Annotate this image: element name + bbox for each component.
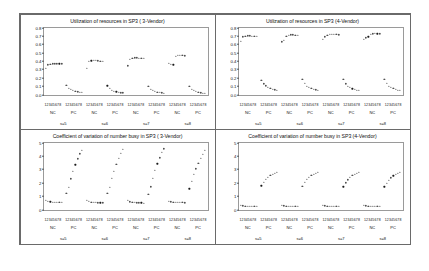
x-axis-subgroup-label: PC: [195, 110, 201, 115]
data-point: [56, 202, 57, 203]
data-point: [171, 64, 172, 65]
data-point: [370, 34, 371, 35]
x-axis-tick-labels: 12345678: [364, 218, 381, 222]
y-axis-tick-label: 0.5: [231, 50, 237, 55]
data-point: [347, 85, 348, 86]
x-axis-tick-labels: 12345678: [343, 218, 360, 222]
data-point: [120, 153, 121, 154]
x-axis-subgroup-label: NC: [369, 225, 375, 230]
x-axis-tick-labels: 12345678: [127, 103, 144, 107]
y-axis-tick-mark: [237, 69, 239, 70]
y-axis-tick-label: 0.3: [36, 67, 42, 72]
chart-title: Utilization of resources in SP3 ( 3-Vend…: [21, 18, 215, 24]
data-point: [349, 87, 350, 88]
y-axis-tick-label: 0.4: [231, 59, 237, 64]
data-point: [195, 168, 196, 169]
data-point: [354, 89, 355, 90]
data-point: [59, 63, 60, 64]
x-axis-subgroup-label: PC: [307, 110, 313, 115]
data-point: [240, 40, 241, 41]
y-axis-tick-label: 0.1: [231, 84, 237, 89]
x-axis: 12345678NC12345678PC12345678NC12345678PC…: [238, 211, 404, 244]
data-point: [177, 201, 178, 202]
data-point: [52, 63, 53, 64]
data-point: [175, 202, 176, 203]
x-axis-subgroup-label: NC: [286, 225, 292, 230]
data-point: [317, 90, 318, 91]
data-point: [368, 36, 369, 37]
x-axis-subgroup-label: NC: [91, 110, 97, 115]
data-point: [395, 174, 396, 175]
data-point: [363, 204, 364, 205]
x-axis-tick-labels: 12345678: [322, 218, 339, 222]
data-point: [148, 193, 149, 194]
data-point: [118, 91, 119, 92]
chart-panel-top-right: Utilization of resources in SP3 (4-Vendo…: [215, 14, 411, 130]
x-axis-subgroup-label: PC: [307, 225, 313, 230]
x-axis-subgroup-label: PC: [349, 225, 355, 230]
data-point: [48, 64, 49, 65]
data-point: [204, 150, 205, 151]
data-point: [200, 158, 201, 159]
data-point: [89, 61, 90, 62]
data-point: [159, 92, 160, 93]
data-point: [109, 186, 110, 187]
chart-title: Utilization of resources in SP3 (4-Vendo…: [216, 18, 410, 24]
data-point: [254, 206, 255, 207]
data-point: [70, 89, 71, 90]
data-point: [370, 206, 371, 207]
data-point: [198, 91, 199, 92]
data-point: [118, 158, 119, 159]
data-point: [313, 88, 314, 89]
x-axis-subgroup-label: PC: [112, 225, 118, 230]
data-point: [184, 202, 185, 203]
y-axis-tick-mark: [237, 77, 239, 78]
data-point: [97, 60, 98, 61]
data-point: [256, 206, 257, 207]
x-axis-tick-labels: 12345678: [86, 103, 103, 107]
data-point: [54, 201, 55, 202]
data-point: [161, 152, 162, 153]
data-point: [265, 179, 266, 180]
data-point: [161, 92, 162, 93]
data-point: [366, 37, 367, 38]
data-point: [189, 188, 190, 189]
data-point: [132, 201, 133, 202]
data-point: [379, 206, 380, 207]
data-point: [311, 88, 312, 89]
data-point: [141, 202, 142, 203]
data-point: [386, 83, 387, 84]
data-point: [288, 206, 289, 207]
x-axis-tick-labels: 12345678: [107, 103, 124, 107]
y-axis-tick-label: 0.4: [36, 59, 42, 64]
data-point: [267, 176, 268, 177]
data-point: [163, 148, 164, 149]
data-point: [313, 173, 314, 174]
y-axis-tick-mark: [237, 61, 239, 62]
x-axis-group-label: s=6: [101, 236, 108, 241]
data-point: [390, 87, 391, 88]
data-point: [136, 57, 137, 58]
data-point: [59, 202, 60, 203]
y-axis-tick-mark: [237, 196, 239, 197]
y-axis-tick-mark: [237, 86, 239, 87]
data-point: [168, 201, 169, 202]
data-point: [290, 206, 291, 207]
plot-area: 012345: [238, 142, 404, 211]
plot-area: 0.00.10.20.30.40.50.60.70.8: [43, 27, 209, 96]
data-point: [399, 171, 400, 172]
x-axis-group-label: s=7: [338, 236, 345, 241]
x-axis-tick-labels: 12345678: [302, 103, 319, 107]
x-axis: 12345678NC12345678PC12345678NC12345678PC…: [43, 211, 209, 244]
data-point: [138, 57, 139, 58]
data-point: [120, 92, 121, 93]
data-point: [148, 85, 149, 86]
data-point: [292, 34, 293, 35]
data-point: [384, 78, 385, 79]
data-point: [338, 206, 339, 207]
data-point: [261, 79, 262, 80]
x-axis-subgroup-label: PC: [390, 110, 396, 115]
data-point: [388, 85, 389, 86]
data-point: [388, 179, 389, 180]
data-point: [393, 175, 394, 176]
